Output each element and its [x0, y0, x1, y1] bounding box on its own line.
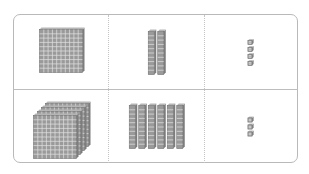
- base-ten-blocks: [0, 0, 309, 174]
- ten-rod-2-4: [158, 104, 166, 149]
- ten-rod-1-1: [148, 30, 156, 75]
- unit-cube-1-1: [248, 39, 254, 45]
- ten-rod-2-1: [129, 104, 137, 149]
- unit-cube-1-2: [248, 46, 254, 52]
- unit-cube-2-1: [248, 116, 254, 122]
- hundred-flat-2-1: [34, 114, 79, 159]
- unit-cube-1-3: [248, 53, 254, 59]
- unit-cube-2-2: [248, 123, 254, 129]
- ten-rod-2-2: [139, 104, 147, 149]
- ten-rod-2-3: [148, 104, 156, 149]
- unit-cube-2-3: [248, 130, 254, 136]
- ten-rod-2-6: [177, 104, 185, 149]
- ten-rod-1-2: [158, 30, 166, 75]
- unit-cube-1-4: [248, 60, 254, 66]
- ten-rod-2-5: [167, 104, 175, 149]
- hundred-flat-1-1: [40, 28, 85, 73]
